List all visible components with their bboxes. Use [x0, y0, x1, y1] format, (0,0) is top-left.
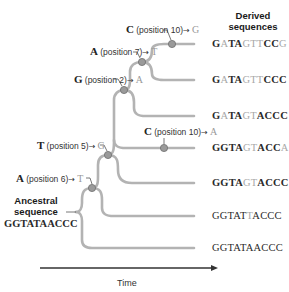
- arrow-icon: →: [127, 76, 134, 85]
- ancestral-sequence: GGTATAACCC: [4, 218, 78, 229]
- mutation-to: T: [77, 173, 83, 184]
- heading-line-1: Ancestral: [6, 195, 66, 206]
- mutation-label-c10a: C (position 10)→ A: [144, 126, 217, 138]
- branch-root: [76, 188, 92, 212]
- branch-root-lower: [76, 212, 194, 248]
- branch-a6-up: [92, 155, 108, 188]
- mutation-node-a7t: [138, 58, 145, 65]
- mutation-position: (position 7): [100, 47, 142, 57]
- branch-g2-down: [124, 90, 194, 116]
- derived-sequence-7: GGTATAACCC: [212, 242, 283, 254]
- derived-sequence-6: GGTATTACCC: [212, 210, 282, 222]
- branch-t5-mid: [114, 140, 194, 148]
- mutation-position: (position 10): [136, 25, 183, 35]
- derived-sequence-4: GGTAGTACCA: [212, 142, 289, 154]
- heading-line-2: sequences: [224, 21, 282, 32]
- arrow-icon: →: [89, 142, 96, 151]
- arrow-icon: →: [201, 128, 208, 137]
- mutation-label-t5g: T (position 5)→ G: [37, 140, 105, 152]
- time-axis-label: Time: [117, 278, 137, 288]
- mutation-node-g2a: [120, 86, 127, 93]
- arrow-icon: →: [68, 175, 75, 184]
- heading-line-2: sequence: [6, 206, 66, 217]
- derived-sequence-3: GATAGTACCC: [212, 110, 288, 122]
- derived-sequence-2: GATAGTTCCC: [212, 74, 287, 86]
- mutation-node-c10g: [168, 40, 175, 47]
- mutation-from: C: [126, 23, 134, 35]
- mutation-from: C: [144, 125, 152, 137]
- time-axis: [40, 265, 218, 271]
- mutation-node-t5g: [104, 151, 111, 158]
- mutation-position: (position 2): [85, 75, 127, 85]
- mutation-position: (position 6): [26, 174, 68, 184]
- mutation-from: G: [74, 73, 83, 85]
- derived-sequence-5: GGTAGTACCC: [212, 177, 289, 189]
- mutation-from: T: [37, 139, 44, 151]
- derived-sequence-1: GATAGTTCCG: [212, 38, 287, 50]
- mutation-label-g2a: G (position 2)→ A: [74, 74, 143, 86]
- mutation-position: (position 5): [47, 141, 89, 151]
- branch-a6-down: [92, 188, 194, 216]
- mutation-node-a6t: [88, 184, 95, 191]
- mutation-label-a6t: A (position 6)→ T: [16, 173, 83, 185]
- phylogenetic-tree-diagram: Derived sequences C (position 10)→ G A (…: [0, 0, 289, 292]
- mutation-to: G: [98, 140, 105, 151]
- mutation-from: A: [16, 172, 24, 184]
- arrow-icon: →: [142, 48, 149, 57]
- mutation-position: (position 10): [154, 127, 201, 137]
- mutation-label-c10g: C (position 10)→ G: [126, 24, 199, 36]
- branch-t5-down: [108, 155, 194, 183]
- mutation-label-a7t: A (position 7)→ T: [90, 46, 157, 58]
- mutation-to: G: [192, 24, 199, 35]
- mutation-to: T: [151, 46, 157, 57]
- arrow-icon: →: [183, 26, 190, 35]
- mutation-node-c10a: [160, 144, 167, 151]
- branch-a7-down: [142, 62, 194, 80]
- ancestral-sequence-heading: Ancestral sequence: [6, 195, 66, 217]
- derived-sequences-heading: Derived sequences: [224, 10, 282, 32]
- mutation-to: A: [136, 74, 143, 85]
- heading-line-1: Derived: [224, 10, 282, 21]
- mutation-to: A: [210, 126, 217, 137]
- mutation-from: A: [90, 45, 98, 57]
